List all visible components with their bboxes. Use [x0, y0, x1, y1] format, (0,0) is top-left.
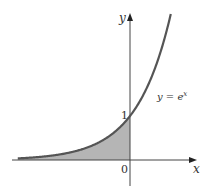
curve-label: y = ex [156, 90, 187, 102]
y-axis-arrow-icon [127, 13, 133, 21]
x-axis-label: x [193, 162, 200, 176]
y-axis-label: y [118, 11, 126, 25]
shaded-area [18, 116, 130, 160]
curve-label-exp: x [183, 90, 187, 98]
exp-curve [18, 14, 171, 158]
curve-label-main: y = e [156, 91, 183, 102]
y-intercept-label: 1 [121, 109, 128, 122]
exp-graph: y x 0 1 y = ex [0, 0, 209, 191]
origin-label: 0 [121, 163, 128, 176]
